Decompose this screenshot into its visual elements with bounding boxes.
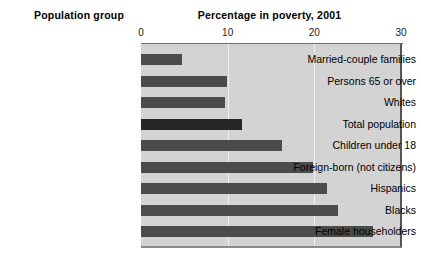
bar-row bbox=[141, 97, 225, 108]
category-label-female-householders: Female householders bbox=[285, 226, 421, 237]
x-tick-10: 10 bbox=[222, 27, 233, 38]
bar-row bbox=[141, 54, 182, 65]
bar-total-population bbox=[141, 119, 242, 130]
bar-married-couple-families bbox=[141, 54, 182, 65]
category-label-foreign-born-not-citizens: Foreign-born (not citizens) bbox=[285, 162, 421, 173]
bar-persons-65-or-over bbox=[141, 76, 227, 87]
category-label-total-population: Total population bbox=[285, 119, 421, 130]
x-tick-20: 20 bbox=[309, 27, 320, 38]
category-label-whites: Whites bbox=[285, 97, 421, 108]
category-label-blacks: Blacks bbox=[285, 205, 421, 216]
bar-children-under-18 bbox=[141, 140, 282, 151]
x-tick-30: 30 bbox=[395, 27, 406, 38]
x-axis-tick-labels: 0102030 bbox=[0, 27, 421, 41]
category-label-hispanics: Hispanics bbox=[285, 183, 421, 194]
bar-row bbox=[141, 140, 282, 151]
x-tick-0: 0 bbox=[138, 27, 144, 38]
bar-whites bbox=[141, 97, 225, 108]
chart-title: Percentage in poverty, 2001 bbox=[0, 9, 421, 21]
poverty-bar-chart: Population group Percentage in poverty, … bbox=[0, 0, 421, 262]
bar-row bbox=[141, 119, 242, 130]
category-label-persons-65-or-over: Persons 65 or over bbox=[285, 76, 421, 87]
category-label-married-couple-families: Married-couple families bbox=[285, 54, 421, 65]
category-label-children-under-18: Children under 18 bbox=[285, 140, 421, 151]
bar-row bbox=[141, 76, 227, 87]
